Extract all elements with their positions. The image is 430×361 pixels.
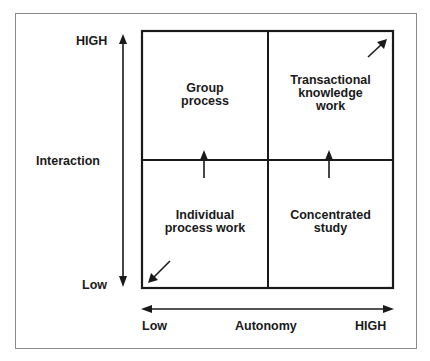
- left-up-arrow-icon: [200, 150, 208, 160]
- x-axis-left-arrowhead-icon: [141, 305, 152, 313]
- y-axis-up-arrowhead-icon: [119, 34, 127, 44]
- x-axis-low-label: Low: [142, 320, 167, 333]
- y-axis-high-label: HIGH: [76, 35, 107, 48]
- quadrant-top-right-label: Transactional knowledge work: [268, 74, 393, 113]
- quadrant-bottom-right-label: Concentrated study: [268, 209, 393, 235]
- y-axis-down-arrowhead-icon: [119, 276, 127, 287]
- quadrant-top-left-label: Group process: [142, 82, 268, 108]
- x-axis-right-arrowhead-icon: [383, 305, 394, 313]
- y-axis-low-label: Low: [82, 279, 107, 292]
- x-axis-title: Autonomy: [235, 320, 297, 333]
- bottom-left-diagonal-shaft: [152, 261, 170, 279]
- x-axis-high-label: HIGH: [355, 320, 386, 333]
- y-axis-title: Interaction: [36, 155, 100, 168]
- right-up-arrow-icon: [325, 150, 333, 160]
- matrix-graphics: [0, 0, 430, 361]
- quadrant-bottom-left-label: Individual process work: [142, 209, 268, 235]
